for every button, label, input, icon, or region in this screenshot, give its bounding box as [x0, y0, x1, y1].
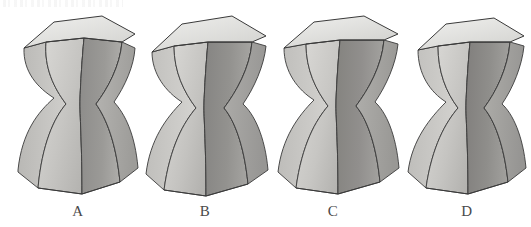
solid-d [398, 12, 531, 202]
solid-a [8, 12, 158, 202]
solid-b [140, 12, 290, 202]
caption-b: B [175, 203, 235, 220]
caption-c: C [303, 203, 363, 220]
figure-canvas: A [0, 0, 531, 227]
caption-a: A [48, 203, 108, 220]
scan-artifact [3, 0, 123, 7]
caption-d: D [437, 203, 497, 220]
